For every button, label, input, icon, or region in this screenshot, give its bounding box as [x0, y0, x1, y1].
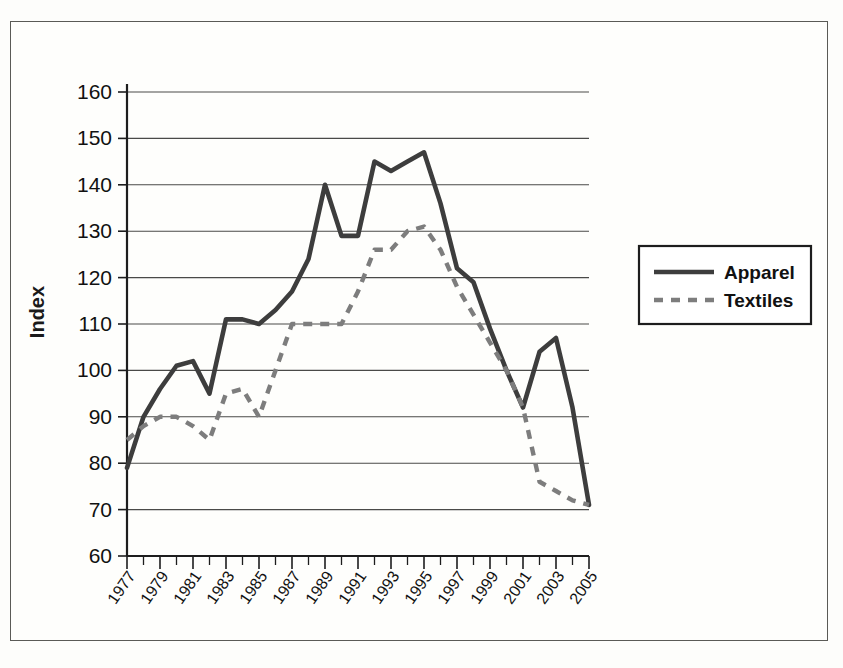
x-axis-ticks: 1977197919811983198519871989199119931995… [104, 556, 600, 607]
legend-border [639, 246, 811, 324]
x-tick-label: 1989 [302, 568, 336, 607]
y-tick-label: 60 [89, 544, 112, 567]
x-tick-label: 1983 [203, 568, 237, 607]
y-axis-title: Index [26, 286, 48, 338]
x-tick-label: 1995 [401, 568, 435, 607]
x-tick-label: 1977 [104, 568, 138, 607]
line-chart: 60708090100110120130140150160 1977197919… [0, 0, 843, 668]
x-tick-label: 1987 [269, 568, 303, 607]
x-tick-label: 1997 [434, 568, 468, 607]
x-tick-label: 1981 [170, 568, 204, 607]
x-tick-label: 2005 [566, 568, 600, 607]
y-tick-label: 130 [77, 219, 112, 242]
y-tick-label: 80 [89, 451, 112, 474]
x-tick-label: 1999 [467, 568, 501, 607]
x-tick-label: 1985 [236, 568, 270, 607]
y-tick-label: 140 [77, 173, 112, 196]
y-tick-label: 110 [79, 312, 112, 335]
legend-label-textiles: Textiles [724, 290, 793, 311]
x-tick-label: 2001 [500, 568, 534, 607]
data-series [127, 152, 589, 505]
gridlines [127, 92, 589, 556]
x-tick-label: 2003 [533, 568, 567, 607]
y-tick-label: 150 [77, 126, 112, 149]
chart-page: 60708090100110120130140150160 1977197919… [0, 0, 843, 668]
x-tick-label: 1993 [368, 568, 402, 607]
y-tick-label: 100 [77, 358, 112, 381]
series-line-apparel [127, 152, 589, 505]
y-tick-label: 70 [89, 498, 112, 521]
chart-legend: Apparel Textiles [639, 246, 811, 324]
y-tick-label: 90 [89, 405, 112, 428]
y-tick-label: 120 [77, 266, 112, 289]
y-axis-ticks: 60708090100110120130140150160 [77, 80, 127, 567]
x-tick-label: 1991 [335, 568, 369, 607]
x-tick-label: 1979 [137, 568, 171, 607]
y-tick-label: 160 [77, 80, 112, 103]
legend-label-apparel: Apparel [724, 262, 795, 283]
